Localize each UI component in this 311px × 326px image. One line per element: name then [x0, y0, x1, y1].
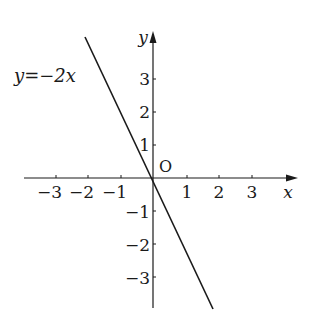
coordinate-plane: −3 −2 −1 1 2 3 x 3 2 1 −1 −2 −3 y O y=−2…: [0, 0, 311, 326]
y-tick-label: −1: [125, 202, 150, 222]
x-tick-label: −2: [69, 182, 94, 202]
x-axis-label: x: [283, 182, 293, 202]
x-tick-label: 2: [214, 182, 225, 202]
y-axis-arrow-icon: [150, 31, 157, 43]
x-tick-label: 1: [182, 182, 193, 202]
x-tick-label: 3: [247, 182, 258, 202]
y-tick-label: 3: [139, 69, 150, 89]
y-tick-label: 1: [139, 135, 150, 155]
origin-label: O: [159, 157, 172, 176]
y-axis-label: y: [137, 27, 148, 47]
x-tick-label: −1: [102, 182, 127, 202]
x-axis-arrow-icon: [286, 175, 298, 182]
x-tick-label: −3: [37, 182, 62, 202]
y-tick-label: −3: [125, 268, 150, 288]
y-tick-label: 2: [139, 102, 150, 122]
y-tick-label: −2: [125, 235, 150, 255]
y-axis: 3 2 1 −1 −2 −3 y: [125, 27, 157, 308]
equation-label: y=−2x: [13, 65, 76, 86]
